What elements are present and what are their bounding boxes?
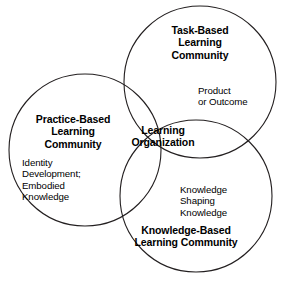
label-task-based-attribute: Product or Outcome xyxy=(198,85,288,108)
venn-diagram: Task-Based Learning Community Practice-B… xyxy=(0,0,297,290)
label-knowledge-based-attribute: Knowledge Shaping Knowledge xyxy=(180,184,266,218)
label-learning-organization: Learning Organization xyxy=(116,124,210,149)
label-task-based-learning-community: Task-Based Learning Community xyxy=(150,24,250,61)
label-practice-based-learning-community: Practice-Based Learning Community xyxy=(18,113,128,150)
label-practice-based-attribute: Identity Development; Embodied Knowledge xyxy=(22,157,114,203)
label-knowledge-based-learning-community: Knowledge-Based Learning Community xyxy=(108,224,264,249)
